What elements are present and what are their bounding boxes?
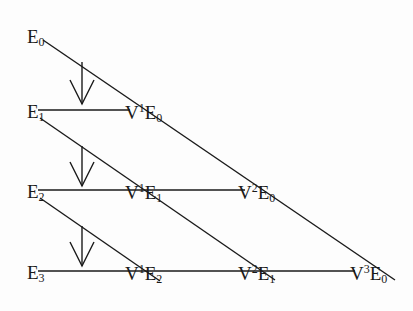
node-v2-e0: V2E0: [238, 182, 275, 204]
down-arrow-icon: [70, 226, 94, 266]
row-label-e1: E1: [27, 102, 45, 123]
node-v2-e1: V2E1: [238, 263, 275, 285]
diagonal-e0: [43, 40, 395, 280]
row-label-e2: E2: [27, 182, 45, 203]
diagram: E0 E1 E2 E3 V1E0 V1E1 V2E0 V1E2 V2E1 V3E…: [0, 0, 413, 311]
node-v1-e0: V1E0: [125, 102, 162, 124]
down-arrow-icon: [70, 62, 94, 104]
row-label-e0: E0: [27, 27, 45, 48]
node-v1-e1: V1E1: [125, 182, 162, 204]
node-v3-e0: V3E0: [350, 263, 387, 285]
node-v1-e2: V1E2: [125, 263, 162, 285]
row-label-e3: E3: [27, 263, 45, 284]
